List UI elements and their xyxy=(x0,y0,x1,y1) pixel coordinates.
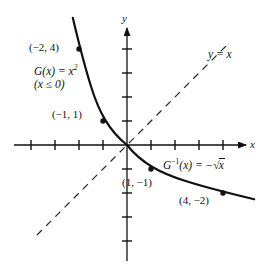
label-point-1-neg1: (1, −1) xyxy=(122,176,152,189)
point-neg1-1 xyxy=(100,118,105,123)
label-function-inverse: G−1(x) = −√x xyxy=(163,158,225,172)
x-axis-label: x xyxy=(250,138,255,151)
figure-container: (−2, 4) G(x) = x2 (x ≤ 0) (−1, 1) (1, −1… xyxy=(0,0,264,277)
label-function-main-exponent: 2 xyxy=(74,63,78,72)
label-function-main: G(x) = x2 xyxy=(34,64,77,78)
curve-g-of-x xyxy=(73,18,127,145)
label-function-inverse-radicand: x xyxy=(219,158,225,171)
point-1-neg1 xyxy=(148,166,153,171)
label-function-inverse-body: (x) = − xyxy=(179,159,213,171)
label-identity-line: y = x xyxy=(208,48,232,61)
point-neg2-4 xyxy=(76,46,81,51)
label-point-4-neg2: (4, −2) xyxy=(179,194,209,207)
label-point-neg2-4: (−2, 4) xyxy=(29,41,59,54)
label-point-neg1-1: (−1, 1) xyxy=(52,108,82,121)
point-4-neg2 xyxy=(220,190,225,195)
curve-g-inverse-of-x xyxy=(127,145,254,199)
y-axis-label: y xyxy=(122,12,127,25)
label-function-domain: (x ≤ 0) xyxy=(34,78,65,91)
label-function-main-text: G(x) = x xyxy=(34,65,74,77)
